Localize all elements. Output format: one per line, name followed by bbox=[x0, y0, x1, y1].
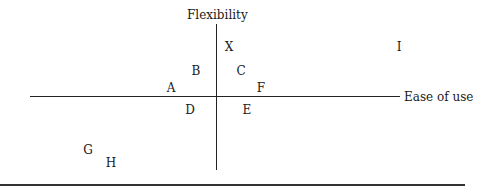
point-b: B bbox=[192, 64, 201, 78]
x-axis-label: Ease of use bbox=[404, 90, 473, 104]
point-g: G bbox=[83, 143, 93, 157]
point-d: D bbox=[185, 103, 195, 117]
point-f: F bbox=[257, 81, 265, 95]
point-a: A bbox=[167, 81, 176, 95]
y-axis-label: Flexibility bbox=[187, 8, 248, 22]
point-i: I bbox=[397, 40, 402, 54]
y-axis-line bbox=[216, 24, 217, 170]
point-h: H bbox=[106, 156, 116, 170]
x-axis-line bbox=[30, 96, 400, 97]
point-c: C bbox=[236, 64, 245, 78]
bottom-rule bbox=[0, 184, 465, 186]
point-e: E bbox=[243, 103, 252, 117]
point-x: X bbox=[225, 40, 234, 54]
